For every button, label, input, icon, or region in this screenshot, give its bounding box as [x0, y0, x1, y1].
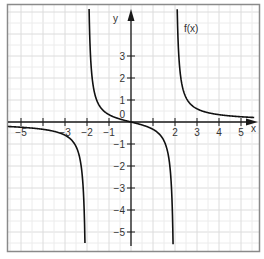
y-tick-label: −5	[114, 227, 126, 238]
x-tick-label: 4	[216, 127, 222, 138]
y-tick-label: 2	[119, 73, 125, 84]
x-tick-label: 3	[194, 127, 200, 138]
x-tick-label: −3	[59, 127, 71, 138]
x-tick-label: −1	[103, 127, 115, 138]
x-axis-label: x	[251, 123, 256, 134]
y-tick-label: −3	[114, 183, 126, 194]
y-tick-label: 0	[119, 109, 125, 120]
y-tick-label: −4	[114, 205, 126, 216]
x-tick-label: −2	[81, 127, 93, 138]
x-tick-label: 2	[172, 127, 178, 138]
function-plot: −5−3−2−123453210−1−2−3−4−5 y x f(x)	[0, 0, 264, 259]
curve-label: f(x)	[184, 23, 198, 34]
y-tick-label: −2	[114, 161, 126, 172]
y-tick-label: 3	[119, 51, 125, 62]
x-tick-label: 5	[238, 127, 244, 138]
y-axis-label: y	[113, 13, 118, 24]
y-tick-label: −1	[114, 139, 126, 150]
y-tick-label: 1	[119, 95, 125, 106]
x-tick-label: −5	[15, 127, 27, 138]
